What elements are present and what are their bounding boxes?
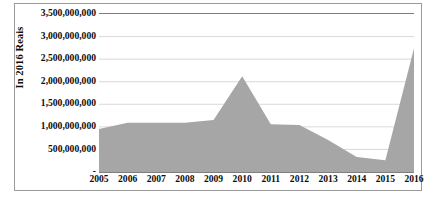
area-series-svg	[99, 14, 414, 172]
y-tick-label: 1,500,000,000	[22, 98, 96, 108]
y-axis-tick-labels: -500,000,0001,000,000,0001,500,000,0002,…	[22, 13, 96, 171]
area-chart-figure: In 2016 Reais -500,000,0001,000,000,0001…	[0, 0, 434, 206]
area-series-path	[99, 48, 414, 172]
y-tick-label: 2,000,000,000	[22, 76, 96, 86]
y-tick-label: 1,000,000,000	[22, 121, 96, 131]
x-axis-tick-labels: 2005200620072008200920102011201220132014…	[99, 174, 414, 190]
y-tick-label: 2,500,000,000	[22, 53, 96, 63]
y-tick-label: 3,000,000,000	[22, 31, 96, 41]
plot-area	[99, 13, 414, 173]
y-tick-label: 500,000,000	[22, 144, 96, 154]
x-tick-label: 2016	[394, 174, 434, 184]
y-tick-label: 3,500,000,000	[22, 8, 96, 18]
